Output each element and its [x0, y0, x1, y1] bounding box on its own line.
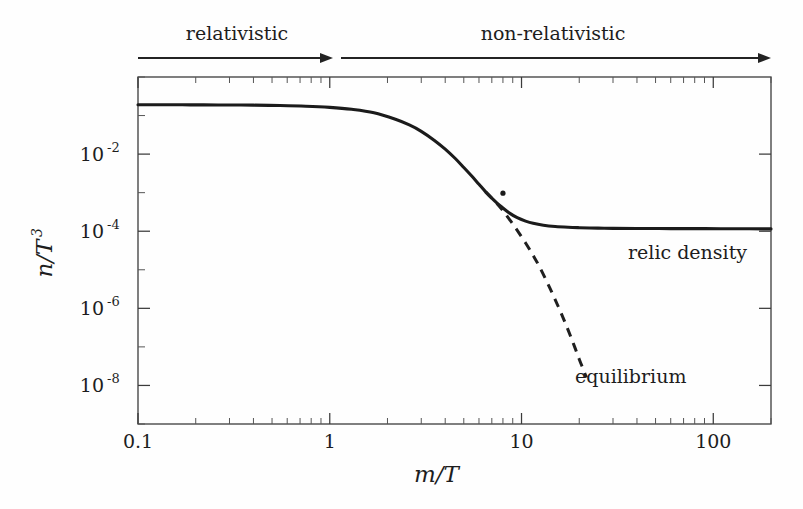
x-tick-label: 10	[509, 430, 533, 452]
x-axis-tick-labels: 0.1110100	[123, 430, 732, 452]
y-tick-mantissa: 10	[80, 143, 104, 165]
y-tick-mantissa: 10	[80, 220, 104, 242]
regime-label-relativistic: relativistic	[186, 22, 288, 44]
axis-titles: m/Tn/T3	[29, 228, 461, 487]
y-tick-mantissa: 10	[80, 374, 104, 396]
regime-labels: relativisticnon-relativistic	[186, 22, 626, 44]
relic-abundance-figure: relativisticnon-relativistic 0.1110100 1…	[0, 0, 803, 509]
plot-canvas: relativisticnon-relativistic 0.1110100 1…	[0, 0, 803, 509]
x-tick-label: 100	[695, 430, 731, 452]
y-tick-exponent: -2	[107, 140, 120, 155]
x-tick-label: 0.1	[123, 430, 153, 452]
annotation-equilibrium: equilibrium	[575, 365, 686, 387]
regime-arrows	[138, 53, 771, 63]
curve-annotations: relic densityequilibrium	[575, 241, 747, 387]
y-axis-title-base: n/T	[31, 238, 57, 278]
y-axis-tick-labels: 10-210-410-610-8	[80, 140, 120, 396]
regime-label-non-relativistic: non-relativistic	[481, 22, 626, 44]
x-tick-label: 1	[324, 430, 336, 452]
equilibrium-curve	[486, 192, 587, 378]
regime-arrowhead-relativistic	[320, 53, 333, 63]
x-axis-title: m/T	[414, 461, 461, 487]
relic-density-curve	[138, 105, 771, 229]
y-tick-exponent: -6	[107, 294, 120, 309]
y-tick-exponent: -8	[107, 371, 120, 386]
y-tick-mantissa: 10	[80, 297, 104, 319]
y-tick-label: 10-6	[80, 294, 120, 319]
y-tick-label: 10-8	[80, 371, 120, 396]
regime-arrowhead-non-relativistic	[758, 53, 771, 63]
y-tick-label: 10-2	[80, 140, 120, 165]
freeze-out-point-marker	[500, 191, 505, 196]
y-axis-title-exponent: 3	[29, 228, 45, 237]
annotation-relic-density: relic density	[628, 241, 747, 263]
y-tick-label: 10-4	[80, 217, 120, 242]
y-axis-title: n/T3	[29, 228, 57, 277]
y-tick-exponent: -4	[107, 217, 120, 232]
